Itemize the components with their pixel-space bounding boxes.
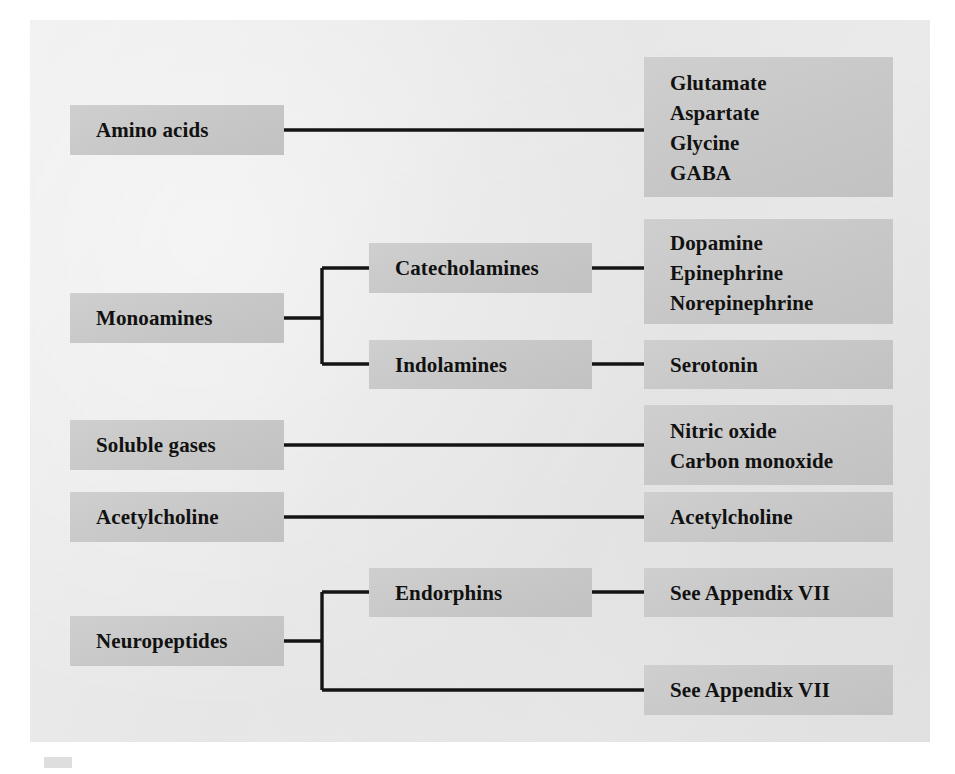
figure-root: Amino acids Monoamines Soluble gases Ace… <box>0 0 955 774</box>
leaf-endorphin-list[interactable]: See Appendix VII <box>644 568 893 617</box>
leaf-item: Dopamine <box>670 228 893 258</box>
node-endorphins-label: Endorphins <box>395 578 592 608</box>
node-acetylcholine-class[interactable]: Acetylcholine <box>70 492 284 542</box>
leaf-item: See Appendix VII <box>670 578 893 608</box>
node-endorphins[interactable]: Endorphins <box>369 568 592 617</box>
node-amino-acids[interactable]: Amino acids <box>70 105 284 155</box>
leaf-indolamine-list[interactable]: Serotonin <box>644 340 893 389</box>
leaf-item: See Appendix VII <box>670 675 893 705</box>
leaf-soluble-gas-list[interactable]: Nitric oxide Carbon monoxide <box>644 405 893 485</box>
node-indolamines[interactable]: Indolamines <box>369 340 592 389</box>
node-catecholamines[interactable]: Catecholamines <box>369 243 592 293</box>
leaf-item: Norepinephrine <box>670 288 893 318</box>
node-acetylcholine-class-label: Acetylcholine <box>96 502 284 532</box>
leaf-item: Acetylcholine <box>670 502 893 532</box>
node-catecholamines-label: Catecholamines <box>395 253 592 283</box>
node-monoamines[interactable]: Monoamines <box>70 293 284 343</box>
leaf-other-neuropeptide-list[interactable]: See Appendix VII <box>644 665 893 715</box>
node-monoamines-label: Monoamines <box>96 303 284 333</box>
node-soluble-gases-label: Soluble gases <box>96 430 284 460</box>
leaf-catecholamine-list[interactable]: Dopamine Epinephrine Norepinephrine <box>644 219 893 324</box>
leaf-item: Nitric oxide <box>670 416 893 446</box>
leaf-item: Aspartate <box>670 98 893 128</box>
leaf-acetylcholine-list[interactable]: Acetylcholine <box>644 492 893 542</box>
node-amino-acids-label: Amino acids <box>96 115 284 145</box>
node-soluble-gases[interactable]: Soluble gases <box>70 420 284 470</box>
leaf-item: Serotonin <box>670 350 893 380</box>
node-neuropeptides[interactable]: Neuropeptides <box>70 616 284 666</box>
leaf-item: Carbon monoxide <box>670 446 893 476</box>
node-neuropeptides-label: Neuropeptides <box>96 626 284 656</box>
leaf-item: Glycine <box>670 128 893 158</box>
leaf-item: Glutamate <box>670 68 893 98</box>
leaf-item: Epinephrine <box>670 258 893 288</box>
scan-artifact-mark <box>44 757 72 768</box>
leaf-amino-acid-list[interactable]: Glutamate Aspartate Glycine GABA <box>644 57 893 197</box>
node-indolamines-label: Indolamines <box>395 350 592 380</box>
leaf-item: GABA <box>670 158 893 188</box>
